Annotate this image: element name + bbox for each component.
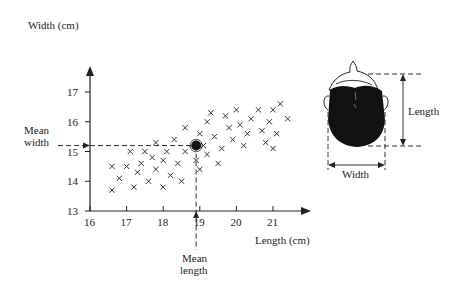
x-marker-icon <box>172 137 177 142</box>
x-marker-icon <box>208 110 213 115</box>
x-axis-label: Length (cm) <box>255 234 310 246</box>
x-marker-icon <box>168 173 173 178</box>
x-marker-icon <box>212 134 217 139</box>
x-marker-icon <box>248 116 253 121</box>
x-marker-icon <box>139 161 144 166</box>
axis-ticks <box>85 92 273 211</box>
mean-lines <box>58 143 199 250</box>
right-ear <box>383 96 388 110</box>
x-axis-arrow-icon <box>301 207 311 215</box>
y-axis-label: Width (cm) <box>28 19 79 31</box>
x-marker-icon <box>226 125 231 130</box>
arrow-right-icon <box>378 162 385 168</box>
arrow-up-icon <box>400 74 406 81</box>
x-marker-icon <box>197 167 202 172</box>
x-marker-icon <box>245 131 250 136</box>
mean-point-marker <box>190 139 202 151</box>
x-marker-icon <box>234 107 239 112</box>
head-length-label: Length <box>408 105 439 117</box>
y-tick-label: 13 <box>67 205 78 217</box>
x-tick-label: 18 <box>157 216 168 228</box>
x-marker-icon <box>270 107 275 112</box>
x-marker-icon <box>183 125 188 130</box>
x-marker-icon <box>263 140 268 145</box>
mean-length-label-1: Mean <box>182 252 207 264</box>
diagram: Width (cm) Length (cm) Mean width Mean l… <box>0 0 459 292</box>
x-marker-icon <box>267 119 272 124</box>
x-marker-icon <box>241 143 246 148</box>
x-marker-icon <box>135 170 140 175</box>
x-marker-icon <box>142 149 147 154</box>
x-marker-icon <box>164 149 169 154</box>
x-marker-icon <box>183 149 188 154</box>
mean-width-label-1: Mean <box>24 124 49 136</box>
x-marker-icon <box>230 137 235 142</box>
x-marker-icon <box>223 113 228 118</box>
mean-length-label-2: length <box>180 264 208 276</box>
x-marker-icon <box>109 188 114 193</box>
x-marker-icon <box>161 185 166 190</box>
y-axis-arrow-icon <box>86 66 94 76</box>
x-marker-icon <box>278 101 283 106</box>
x-marker-icon <box>201 143 206 148</box>
x-marker-icon <box>237 122 242 127</box>
x-marker-icon <box>216 161 221 166</box>
x-tick-label: 17 <box>121 216 132 228</box>
x-tick-label: 21 <box>267 216 278 228</box>
x-marker-icon <box>109 164 114 169</box>
mean-width-label-2: width <box>24 136 49 148</box>
x-marker-icon <box>153 140 158 145</box>
x-tick-label: 19 <box>194 216 205 228</box>
arrow-down-icon <box>400 139 406 146</box>
x-marker-icon <box>285 116 290 121</box>
x-marker-icon <box>274 131 279 136</box>
x-marker-icon <box>161 158 166 163</box>
arrow-right-icon <box>83 143 90 149</box>
x-marker-icon <box>205 119 210 124</box>
x-marker-icon <box>259 128 264 133</box>
x-marker-icon <box>128 149 133 154</box>
x-marker-icon <box>205 152 210 157</box>
head-outline <box>329 61 378 90</box>
y-tick-label: 15 <box>67 146 78 158</box>
x-tick-label: 20 <box>230 216 241 228</box>
x-marker-icon <box>219 146 224 151</box>
x-tick-label: 16 <box>84 216 95 228</box>
x-marker-icon <box>117 176 122 181</box>
y-tick-label: 17 <box>67 86 78 98</box>
x-marker-icon <box>175 161 180 166</box>
x-marker-icon <box>124 164 129 169</box>
x-marker-icon <box>270 146 275 151</box>
left-ear <box>324 96 329 110</box>
x-marker-icon <box>131 185 136 190</box>
x-marker-icon <box>150 155 155 160</box>
x-marker-icon <box>153 167 158 172</box>
hair <box>328 86 385 147</box>
x-marker-icon <box>197 131 202 136</box>
x-marker-icon <box>146 179 151 184</box>
arrow-left-icon <box>328 162 335 168</box>
y-tick-label: 16 <box>67 116 78 128</box>
y-tick-label: 14 <box>67 175 78 187</box>
head-width-label: Width <box>342 168 369 180</box>
x-marker-icon <box>179 179 184 184</box>
x-marker-icon <box>256 107 261 112</box>
